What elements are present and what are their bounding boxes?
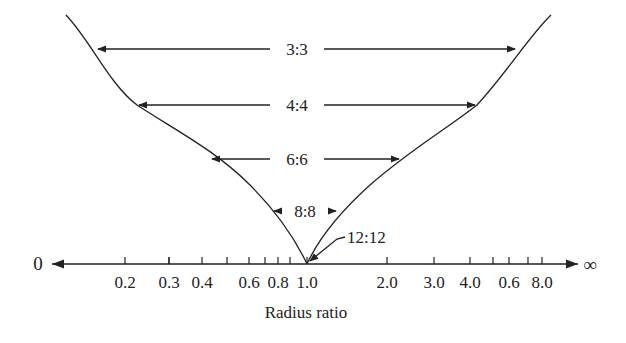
band-label: 4:4 bbox=[286, 96, 308, 115]
tick-label: 2.0 bbox=[376, 273, 397, 292]
tick-label: 0.4 bbox=[191, 273, 213, 292]
band-6-6: 6:6 bbox=[212, 150, 399, 169]
band-3-3: 3:3 bbox=[98, 40, 515, 59]
axis-left-end: 0 bbox=[33, 253, 43, 274]
left-boundary-curve bbox=[66, 15, 307, 264]
x-axis-label: Radius ratio bbox=[265, 303, 348, 322]
band-label: 8:8 bbox=[294, 202, 316, 221]
band-label: 12:12 bbox=[347, 228, 386, 247]
radius-ratio-diagram: 3:3 4:4 6:6 8:8 12:12 0 ∞ 0.20.30.40.60.… bbox=[0, 0, 626, 343]
axis-ticks: 0.20.30.40.60.81.02.03.04.00.68.0 bbox=[114, 257, 552, 292]
band-4-4: 4:4 bbox=[139, 96, 475, 115]
left-arrow-icon bbox=[52, 260, 64, 269]
tick-label: 0.8 bbox=[267, 273, 288, 292]
band-label: 3:3 bbox=[286, 40, 308, 59]
tick-label: 0.6 bbox=[238, 273, 259, 292]
tick-label: 3.0 bbox=[423, 273, 444, 292]
right-arrow-icon bbox=[566, 260, 578, 269]
tick-label: 0.2 bbox=[114, 273, 135, 292]
tick-label: 1.0 bbox=[296, 273, 317, 292]
tick-label: 4.0 bbox=[459, 273, 480, 292]
axis-right-end: ∞ bbox=[583, 254, 597, 275]
band-8-8: 8:8 bbox=[274, 202, 336, 221]
band-12-12: 12:12 bbox=[310, 228, 386, 261]
x-axis: 0 ∞ 0.20.30.40.60.81.02.03.04.00.68.0 Ra… bbox=[33, 253, 597, 322]
tick-label: 0.6 bbox=[498, 273, 519, 292]
right-boundary-curve bbox=[307, 15, 551, 264]
tick-label: 8.0 bbox=[531, 273, 552, 292]
band-label: 6:6 bbox=[286, 150, 308, 169]
tick-label: 0.3 bbox=[158, 273, 179, 292]
